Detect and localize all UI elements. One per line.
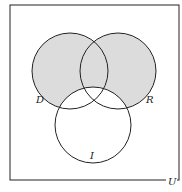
shaded-region: [32, 33, 156, 109]
universe-label: U: [168, 176, 177, 187]
set-d-label: D: [35, 94, 44, 105]
set-r-label: R: [145, 94, 154, 105]
venn-diagram: D R I U: [0, 0, 182, 192]
